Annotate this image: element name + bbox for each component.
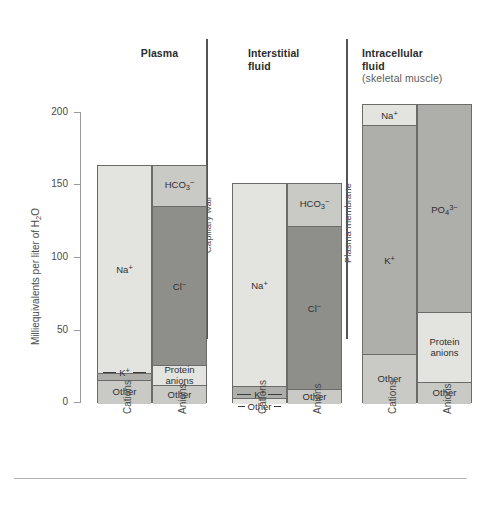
column-header-intracellular: Intracellular fluid (skeletal muscle) bbox=[362, 47, 477, 85]
segment-label-cl: Cl− bbox=[173, 280, 186, 293]
y-tick-0 bbox=[74, 402, 81, 403]
y-tick-label-200: 200 bbox=[42, 106, 68, 117]
segment-intracellular-anions-protein: Protein anions bbox=[418, 312, 471, 382]
segment-label-po4: PO43− bbox=[431, 203, 457, 218]
segment-plasma-anions-hco3: HCO3− bbox=[153, 166, 206, 206]
bar-interstitial-cations: Na+ bbox=[232, 183, 287, 403]
segment-plasma-cations-na: Na+ bbox=[98, 166, 151, 373]
segment-label-k: K+ bbox=[384, 254, 395, 267]
divider-label-plasma-membrane: Plasma membrane bbox=[342, 183, 353, 263]
segment-plasma-anions-cl: Cl− bbox=[153, 206, 206, 365]
bar-plasma-anions: HCO3− Cl− Protein anions Other bbox=[152, 165, 207, 403]
y-axis-title: Milliequivalents per liter of H2O bbox=[30, 208, 43, 345]
axis-label-intracellular-anions: Anions bbox=[442, 383, 453, 414]
bar-intracellular-cations: Na+ K+ Other bbox=[362, 104, 417, 403]
column-title-interstitial-line1: Interstitial bbox=[248, 47, 340, 60]
segment-intracellular-cations-na: Na+ bbox=[363, 105, 416, 125]
segment-label-protein-line2: anions bbox=[431, 348, 459, 359]
column-title-intracellular-line2: fluid bbox=[362, 60, 477, 73]
y-tick-100 bbox=[74, 257, 81, 258]
footer-rule bbox=[14, 478, 467, 479]
segment-label-hco3: HCO3− bbox=[165, 178, 195, 193]
callout-plasma-cations-k: K+ bbox=[99, 366, 150, 378]
y-tick-50 bbox=[74, 330, 81, 331]
bar-interstitial-anions: HCO3− Cl− Other bbox=[287, 183, 342, 403]
axis-label-interstitial-anions: Anions bbox=[312, 383, 323, 414]
y-tick-200 bbox=[74, 112, 81, 113]
column-header-interstitial: Interstitial fluid bbox=[248, 47, 340, 72]
segment-label-na: Na+ bbox=[381, 109, 398, 122]
segment-label-protein-line1: Protein bbox=[429, 337, 459, 348]
segment-interstitial-anions-hco3: HCO3− bbox=[288, 184, 341, 226]
y-tick-label-0: 0 bbox=[42, 396, 68, 407]
segment-label-cl: Cl− bbox=[308, 302, 321, 315]
column-header-plasma: Plasma bbox=[112, 47, 207, 60]
axis-label-intracellular-cations: Cations bbox=[387, 380, 398, 414]
segment-label-na: Na+ bbox=[116, 263, 133, 276]
column-title-intracellular-line1: Intracellular bbox=[362, 47, 477, 60]
segment-label-protein-line1: Protein bbox=[164, 365, 194, 376]
segment-label-hco3: HCO3− bbox=[300, 197, 330, 212]
segment-plasma-anions-protein: Protein anions bbox=[153, 365, 206, 385]
column-title-interstitial-line2: fluid bbox=[248, 60, 340, 73]
y-tick-label-100: 100 bbox=[42, 251, 68, 262]
bar-intracellular-anions: PO43− Protein anions Other bbox=[417, 104, 472, 403]
segment-interstitial-cations-na: Na+ bbox=[233, 184, 286, 386]
axis-label-interstitial-cations: Cations bbox=[257, 380, 268, 414]
column-subtitle-intracellular: (skeletal muscle) bbox=[362, 72, 477, 85]
segment-intracellular-anions-po4: PO43− bbox=[418, 105, 471, 312]
column-title-plasma: Plasma bbox=[112, 47, 207, 60]
axis-label-plasma-anions: Anions bbox=[177, 383, 188, 414]
y-tick-150 bbox=[74, 184, 81, 185]
axis-label-plasma-cations: Cations bbox=[122, 380, 133, 414]
y-tick-label-50: 50 bbox=[42, 324, 68, 335]
figure-canvas: Plasma Interstitial fluid Intracellular … bbox=[0, 0, 481, 507]
segment-intracellular-cations-k: K+ bbox=[363, 125, 416, 354]
segment-label-na: Na+ bbox=[251, 279, 268, 292]
segment-interstitial-anions-cl: Cl− bbox=[288, 226, 341, 389]
callout-label-k: K+ bbox=[119, 366, 130, 378]
y-tick-label-150: 150 bbox=[42, 178, 68, 189]
